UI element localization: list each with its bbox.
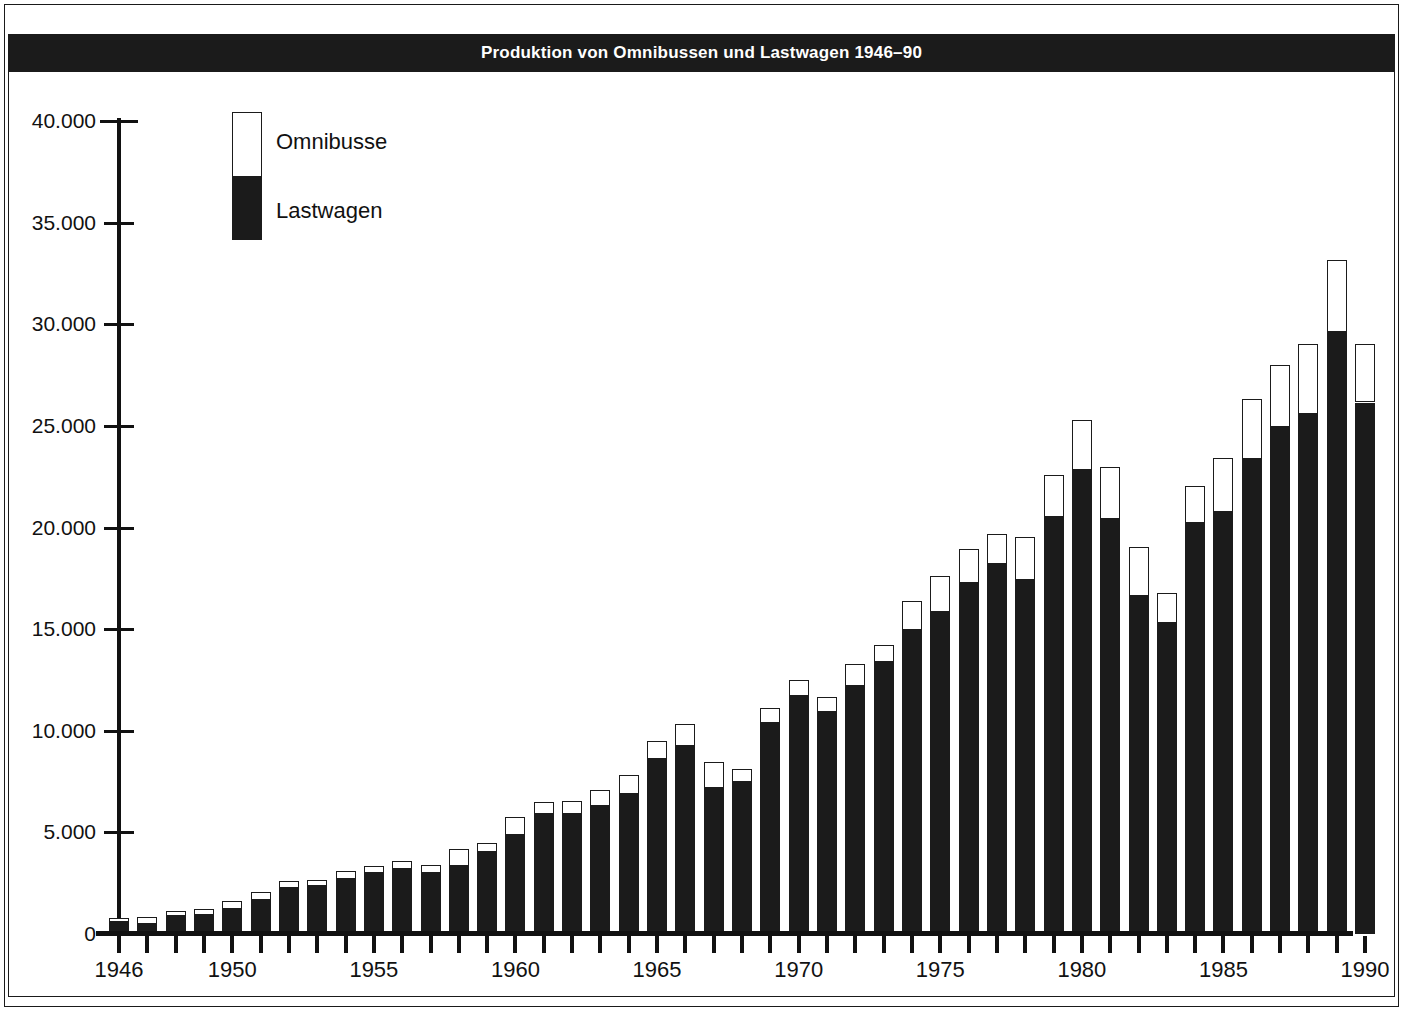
bar-segment-lastwagen xyxy=(930,612,950,934)
x-axis-tick xyxy=(712,936,716,953)
bar-segment-omnibusse xyxy=(987,534,1007,564)
bar-1963 xyxy=(590,790,610,934)
bar-segment-omnibusse xyxy=(1355,344,1375,403)
bar-1958 xyxy=(449,849,469,934)
legend-swatch xyxy=(232,112,262,240)
x-axis-tick-label: 1990 xyxy=(1341,957,1390,983)
bar-segment-lastwagen xyxy=(477,852,497,934)
x-axis-tick-label: 1946 xyxy=(95,957,144,983)
x-axis-tick xyxy=(1137,936,1141,953)
bar-1957 xyxy=(421,865,441,934)
bar-segment-omnibusse xyxy=(137,917,157,924)
x-axis-tick xyxy=(627,936,631,953)
legend-item-omnibusse: Omnibusse xyxy=(276,129,387,155)
x-axis-tick xyxy=(825,936,829,953)
bar-segment-omnibusse xyxy=(590,790,610,806)
bar-1956 xyxy=(392,861,412,934)
bar-segment-omnibusse xyxy=(1270,365,1290,427)
x-axis-tick xyxy=(1165,936,1169,953)
bar-segment-lastwagen xyxy=(959,583,979,934)
bar-1955 xyxy=(364,866,384,934)
bar-segment-omnibusse xyxy=(874,645,894,661)
bar-segment-lastwagen xyxy=(307,886,327,934)
bar-segment-lastwagen xyxy=(534,814,554,934)
bar-1965 xyxy=(647,741,667,934)
bar-segment-lastwagen xyxy=(1270,427,1290,934)
bar-segment-omnibusse xyxy=(505,817,525,835)
x-axis-tick xyxy=(174,936,178,953)
bar-1987 xyxy=(1270,365,1290,934)
bar-segment-omnibusse xyxy=(619,775,639,793)
bar-1969 xyxy=(760,708,780,934)
bar-segment-lastwagen xyxy=(704,788,724,934)
bar-segment-lastwagen xyxy=(449,866,469,934)
bar-segment-omnibusse xyxy=(1157,593,1177,623)
x-axis-tick xyxy=(598,936,602,953)
bar-segment-lastwagen xyxy=(1100,519,1120,934)
bar-segment-omnibusse xyxy=(1129,547,1149,596)
bar-segment-omnibusse xyxy=(336,871,356,879)
bar-segment-lastwagen xyxy=(1157,623,1177,934)
bar-segment-omnibusse xyxy=(421,865,441,873)
bar-segment-lastwagen xyxy=(336,879,356,934)
bar-1960 xyxy=(505,817,525,934)
bar-1983 xyxy=(1157,593,1177,934)
x-axis-tick xyxy=(457,936,461,953)
bar-segment-omnibusse xyxy=(704,762,724,787)
x-axis-tick xyxy=(513,936,517,953)
legend-item-lastwagen: Lastwagen xyxy=(276,198,382,224)
bar-segment-omnibusse xyxy=(959,549,979,584)
chart-page: Produktion von Omnibussen und Lastwagen … xyxy=(0,0,1403,1011)
x-axis-tick xyxy=(429,936,433,953)
bar-1971 xyxy=(817,697,837,934)
bar-segment-lastwagen xyxy=(845,686,865,934)
bar-1988 xyxy=(1298,344,1318,934)
bar-segment-lastwagen xyxy=(817,712,837,934)
x-axis-tick xyxy=(882,936,886,953)
x-axis-tick xyxy=(967,936,971,953)
x-axis-tick xyxy=(1052,936,1056,953)
x-axis-tick xyxy=(570,936,574,953)
bar-1980 xyxy=(1072,420,1092,934)
bar-segment-lastwagen xyxy=(675,746,695,934)
bar-segment-lastwagen xyxy=(619,794,639,934)
x-axis-tick xyxy=(400,936,404,953)
x-axis-tick xyxy=(1335,936,1339,953)
bar-segment-omnibusse xyxy=(477,843,497,852)
bar-segment-omnibusse xyxy=(1327,260,1347,332)
bar-segment-lastwagen xyxy=(987,564,1007,934)
bar-1975 xyxy=(930,576,950,934)
x-axis-tick xyxy=(740,936,744,953)
bar-1985 xyxy=(1213,458,1233,934)
bar-segment-omnibusse xyxy=(845,664,865,686)
bar-1970 xyxy=(789,680,809,934)
bar-segment-omnibusse xyxy=(1100,467,1120,520)
bar-segment-omnibusse xyxy=(732,769,752,781)
bars-layer xyxy=(0,0,1403,1011)
x-axis-tick xyxy=(1250,936,1254,953)
bar-segment-omnibusse xyxy=(902,601,922,630)
bar-segment-omnibusse xyxy=(1298,344,1318,414)
bar-segment-lastwagen xyxy=(1185,523,1205,934)
bar-segment-lastwagen xyxy=(279,888,299,934)
x-axis-tick xyxy=(1278,936,1282,953)
bar-1990 xyxy=(1355,344,1375,934)
x-axis-tick xyxy=(995,936,999,953)
bar-1950 xyxy=(222,901,242,934)
bar-1984 xyxy=(1185,486,1205,934)
x-axis-tick-label: 1955 xyxy=(349,957,398,983)
bar-1979 xyxy=(1044,475,1064,934)
bar-segment-omnibusse xyxy=(1072,420,1092,470)
x-axis-tick xyxy=(259,936,263,953)
x-axis-tick xyxy=(117,936,121,953)
bar-1968 xyxy=(732,769,752,934)
x-axis-tick-label: 1970 xyxy=(774,957,823,983)
x-axis-tick xyxy=(372,936,376,953)
bar-segment-omnibusse xyxy=(647,741,667,759)
x-axis-tick xyxy=(938,936,942,953)
x-axis-tick xyxy=(287,936,291,953)
x-axis-tick xyxy=(145,936,149,953)
bar-1962 xyxy=(562,801,582,934)
bar-1972 xyxy=(845,664,865,934)
x-axis-tick-label: 1960 xyxy=(491,957,540,983)
